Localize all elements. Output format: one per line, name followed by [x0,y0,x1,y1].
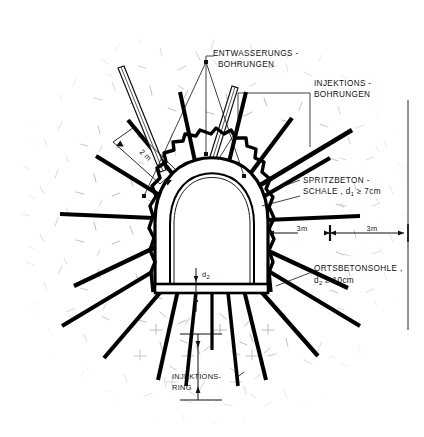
label-shotcrete-line2: SCHALE , d1 ≥ 7cm [303,187,381,197]
drawing-canvas: 3m 3m d2 2 m [0,0,424,437]
label-shotcrete-line1: SPRITZBETON - [303,176,370,185]
label-injection-ring-line1: INJEKTIONS- [172,372,222,381]
tunnel-cross-section-figure: 3m 3m d2 2 m [0,0,424,437]
invert-concrete-slab [155,284,268,293]
label-injection-line2: BOHRUNGEN [314,90,370,99]
dimension-left-span: 3m [297,224,308,233]
label-injection-line1: INJEKTIONS - [314,79,371,88]
label-invert-line1: ORTSBETONSOHLE , [314,264,403,273]
label-drainage-line2: BOHRUNGEN [218,60,274,69]
dimension-right-span: 3m [367,224,378,233]
label-drainage-line1: ENTWASSERUNGS - [213,49,298,58]
label-injection-ring-line2: RING [172,383,192,392]
